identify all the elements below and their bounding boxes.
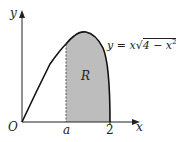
equation-lhs: y = x — [107, 39, 136, 52]
equation-radicand-wrap: 4 − x2 — [143, 38, 176, 52]
origin-label: O — [8, 121, 18, 133]
y-axis-label: y — [10, 7, 17, 19]
equation-radicand: 4 − x — [143, 39, 172, 52]
y-axis-arrow-icon — [19, 10, 25, 18]
equation-exponent: 2 — [172, 38, 176, 46]
region-label: R — [81, 70, 90, 82]
tick-label-a: a — [63, 124, 70, 136]
diagram: y x O a 2 R y = x√4 − x2 — [0, 0, 176, 142]
curve-equation: y = x√4 − x2 — [107, 38, 176, 52]
x-axis-label: x — [136, 121, 143, 133]
sqrt-icon: √ — [136, 39, 143, 52]
tick-label-2: 2 — [106, 124, 114, 136]
